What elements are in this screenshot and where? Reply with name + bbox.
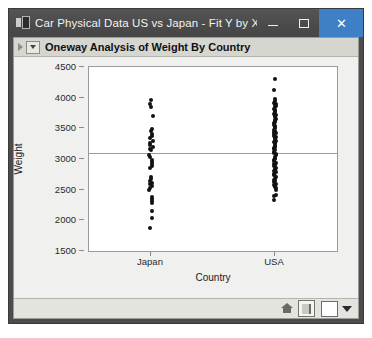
grand-mean-line <box>89 153 337 154</box>
y-tick-label: 2000 <box>55 214 76 225</box>
y-tick-label: 4500 <box>55 61 76 72</box>
y-tick-mark <box>79 158 84 159</box>
y-tick-label: 3000 <box>55 153 76 164</box>
data-point <box>148 226 152 230</box>
data-point <box>272 88 276 92</box>
title-bar[interactable]: Car Physical Data US vs Japan - Fit Y by… <box>9 9 363 37</box>
status-bar <box>14 298 358 318</box>
y-tick-label: 4000 <box>55 91 76 102</box>
window-title: Car Physical Data US vs Japan - Fit Y by… <box>35 17 257 29</box>
context-menu-triangle-icon[interactable] <box>26 41 40 54</box>
x-tick-mark <box>150 252 151 256</box>
y-tick-label: 3500 <box>55 122 76 133</box>
x-axis-title: Country <box>195 272 230 283</box>
minimize-icon <box>268 25 278 26</box>
client-area: Oneway Analysis of Weight By Country 150… <box>13 37 359 319</box>
y-tick-mark <box>79 219 84 220</box>
dropdown-arrow-icon[interactable] <box>342 306 352 312</box>
plot-frame <box>88 66 338 252</box>
maximize-button[interactable] <box>288 9 319 37</box>
x-tick-label: USA <box>264 256 284 267</box>
y-tick-mark <box>79 127 84 128</box>
minimize-button[interactable] <box>257 9 288 37</box>
data-point <box>149 105 153 109</box>
data-point <box>150 216 154 220</box>
window-controls: ✕ <box>257 9 363 37</box>
data-point <box>272 198 276 202</box>
jmp-app-icon <box>16 16 30 30</box>
x-tick-mark <box>274 252 275 256</box>
y-axis-title: Weight <box>13 144 24 175</box>
data-point <box>274 188 278 192</box>
data-point <box>151 114 155 118</box>
white-swatch-icon[interactable] <box>321 301 338 317</box>
report-panel-header[interactable]: Oneway Analysis of Weight By Country <box>14 38 358 57</box>
y-tick-mark <box>79 250 84 251</box>
y-tick-label: 2500 <box>55 183 76 194</box>
data-point <box>150 201 154 205</box>
oneway-scatter-plot: 1500200025003000350040004500 Weight Coun… <box>14 58 358 298</box>
x-tick-label: Japan <box>137 256 163 267</box>
application-window: Car Physical Data US vs Japan - Fit Y by… <box>8 8 364 324</box>
y-tick-mark <box>79 97 84 98</box>
home-icon[interactable] <box>280 301 295 316</box>
data-point <box>148 166 152 170</box>
panel-title: Oneway Analysis of Weight By Country <box>45 41 250 53</box>
y-tick-label: 1500 <box>55 245 76 256</box>
y-tick-mark <box>79 66 84 67</box>
y-axis: 1500200025003000350040004500 <box>14 58 88 260</box>
close-icon: ✕ <box>336 17 347 30</box>
disclosure-triangle-icon[interactable] <box>18 43 23 51</box>
y-tick-mark <box>79 189 84 190</box>
data-point <box>150 209 154 213</box>
close-button[interactable]: ✕ <box>319 9 363 37</box>
data-point <box>149 148 153 152</box>
data-point <box>273 77 277 81</box>
maximize-icon <box>299 19 309 28</box>
report-icon[interactable] <box>298 300 315 317</box>
